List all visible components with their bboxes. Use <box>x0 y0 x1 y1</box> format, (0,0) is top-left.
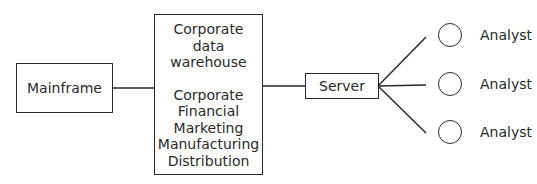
server-analyst-1-link <box>378 37 426 86</box>
warehouse-title-line: data <box>170 38 246 55</box>
mainframe-label: Mainframe <box>27 80 102 96</box>
warehouse-content-line: Manufacturing <box>158 136 259 153</box>
mainframe-box: Mainframe <box>16 63 113 113</box>
server-analyst-2-link <box>378 85 426 86</box>
warehouse-content-line: Financial <box>158 103 259 120</box>
warehouse-content-line: Corporate <box>158 87 259 104</box>
analyst-label: Analyst <box>480 27 532 43</box>
analyst-node-1: Analyst <box>438 23 532 47</box>
analyst-node-2: Analyst <box>438 72 532 96</box>
analyst-label: Analyst <box>480 76 532 92</box>
server-label: Server <box>319 78 365 94</box>
warehouse-title-line: warehouse <box>170 54 246 71</box>
analyst-node-3: Analyst <box>438 120 532 144</box>
warehouse-title-line: Corporate <box>170 21 246 38</box>
server-box: Server <box>305 73 379 99</box>
analyst-circle-icon <box>438 72 462 96</box>
analyst-label: Analyst <box>480 124 532 140</box>
data-warehouse-box: Corporate data warehouse Corporate Finan… <box>154 14 263 175</box>
analyst-circle-icon <box>438 23 462 47</box>
warehouse-content-line: Marketing <box>158 120 259 137</box>
analyst-circle-icon <box>438 120 462 144</box>
warehouse-title: Corporate data warehouse <box>170 21 246 71</box>
warehouse-content-line: Distribution <box>158 153 259 170</box>
warehouse-contents: Corporate Financial Marketing Manufactur… <box>158 87 259 170</box>
server-analyst-3-link <box>378 86 426 133</box>
